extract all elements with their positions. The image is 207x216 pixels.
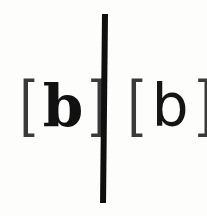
left-glyph-sample: [ b ] bbox=[16, 66, 110, 146]
vertical-divider-bar bbox=[100, 14, 108, 203]
right-close-bracket: ] bbox=[194, 73, 207, 139]
right-glyph-sample: [ b ] bbox=[124, 66, 207, 146]
right-letter-b: b bbox=[152, 77, 189, 135]
right-open-bracket: [ bbox=[128, 73, 147, 139]
left-letter-b: b bbox=[43, 77, 84, 135]
left-open-bracket: [ bbox=[20, 73, 39, 139]
